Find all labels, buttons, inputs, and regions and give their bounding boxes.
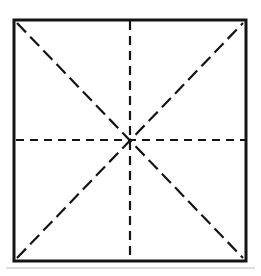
crease-pattern-figure: Square with diagonal and bisector fold l… [0, 0, 261, 276]
crease-pattern-canvas: Square with diagonal and bisector fold l… [0, 0, 261, 276]
